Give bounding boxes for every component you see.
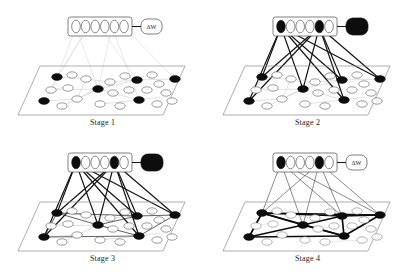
stage-4-delta-label: ΔW: [352, 159, 362, 166]
stage-1-delta-label: ΔW: [147, 23, 157, 30]
stage-3-caption: Stage 3: [0, 254, 205, 263]
stage-1-caption: Stage 1: [0, 118, 205, 127]
stage-2-delta-box: [346, 18, 368, 35]
stage-4-caption: Stage 4: [205, 254, 410, 263]
stage-2-plane-active-nodes: [244, 74, 386, 105]
panel-stage-1: ΔW Stage 1: [0, 0, 205, 136]
stage-2-graphic: [205, 0, 410, 136]
panel-stage-3: Stage 3: [0, 136, 205, 272]
panel-stage-4: ΔW Stage 4: [205, 136, 410, 272]
figure-canvas: ΔW Stage 1: [0, 0, 411, 273]
stage-3-graphic: [0, 136, 205, 272]
panel-stage-2: Stage 2: [205, 0, 410, 136]
stage-1-graphic: ΔW: [0, 0, 205, 136]
stage-1-plane-active-nodes: [39, 74, 181, 105]
stage-3-delta-box: [141, 154, 163, 171]
stage-4-graphic: ΔW: [205, 136, 410, 272]
stage-3-plane-active-nodes: [39, 210, 181, 241]
stage-2-caption: Stage 2: [205, 118, 410, 127]
